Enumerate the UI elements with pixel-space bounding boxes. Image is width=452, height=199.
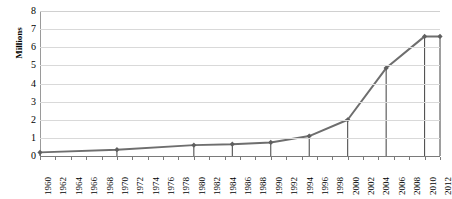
x-axis-tick-mark [71, 157, 72, 160]
x-axis-tick-mark [332, 157, 333, 160]
x-axis-tick-mark [86, 157, 87, 160]
x-axis-tick-label: 1964 [75, 177, 84, 195]
x-axis-tick-mark [378, 157, 379, 160]
x-axis-tick-mark [271, 157, 272, 160]
x-axis-tick-mark [425, 157, 426, 160]
y-axis-tick-label: 1 [14, 133, 36, 143]
x-axis-tick-mark [348, 157, 349, 160]
x-axis-tick-mark [194, 157, 195, 160]
x-axis-tick-label: 1976 [167, 177, 176, 195]
x-axis-tick-mark [363, 157, 364, 160]
data-point-marker [114, 147, 119, 152]
y-axis-tick-label: 7 [14, 24, 36, 34]
x-axis-tick-label: 1970 [121, 177, 130, 195]
x-axis-tick-mark [178, 157, 179, 160]
data-point-marker [230, 142, 235, 147]
y-axis-tick-label: 0 [14, 151, 36, 161]
x-axis-tick-label: 1984 [229, 177, 238, 195]
x-axis-tick-label: 2010 [429, 177, 438, 195]
x-axis-tick-label: 1996 [321, 177, 330, 195]
gridline [40, 84, 440, 85]
gridline [40, 120, 440, 121]
x-axis-tick-label: 1966 [90, 177, 99, 195]
x-axis-tick-label: 1980 [198, 177, 207, 195]
x-axis-tick-label: 1972 [136, 177, 145, 195]
data-point-marker [437, 34, 442, 39]
x-axis-tick-label: 2012 [444, 177, 452, 195]
y-axis-tick-label: 4 [14, 79, 36, 89]
x-axis-tick-label: 1982 [213, 177, 222, 195]
x-axis-tick-mark [394, 157, 395, 160]
y-axis-tick-labels: 876543210 [10, 0, 36, 199]
x-axis-tick-mark [302, 157, 303, 160]
x-axis-tick-label: 1992 [290, 177, 299, 195]
gridline [40, 102, 440, 103]
y-axis-tick-label: 5 [14, 60, 36, 70]
x-axis-tick-label: 2008 [413, 177, 422, 195]
gridline [40, 29, 440, 30]
x-axis-tick-mark [286, 157, 287, 160]
series-polyline [40, 36, 440, 152]
x-axis-tick-mark [102, 157, 103, 160]
x-axis-tick-label: 1962 [59, 177, 68, 195]
x-axis-tick-label: 2004 [382, 177, 391, 195]
gridline [40, 138, 440, 139]
x-axis-tick-label: 1960 [44, 177, 53, 195]
x-axis-tick-mark [117, 157, 118, 160]
x-axis-tick-mark [209, 157, 210, 160]
y-axis-tick-label: 8 [14, 6, 36, 16]
x-axis-tick-label: 1974 [152, 177, 161, 195]
x-axis-tick-label: 1978 [182, 177, 191, 195]
x-axis-tick-label: 1988 [259, 177, 268, 195]
x-axis-tick-label: 1990 [275, 177, 284, 195]
gridline [40, 11, 440, 12]
plot-area [40, 11, 440, 156]
data-point-marker [268, 140, 273, 145]
x-axis-tick-mark [240, 157, 241, 160]
x-axis-tick-mark [132, 157, 133, 160]
gridline [40, 47, 440, 48]
y-axis-tick-label: 6 [14, 42, 36, 52]
x-axis-tick-label: 2002 [367, 177, 376, 195]
x-axis-tick-label: 1986 [244, 177, 253, 195]
x-axis-tick-mark [40, 157, 41, 160]
data-point-marker [191, 143, 196, 148]
y-axis-tick-label: 2 [14, 115, 36, 125]
x-axis-tick-label: 1994 [306, 177, 315, 195]
x-axis-tick-label: 2006 [398, 177, 407, 195]
x-axis-tick-label: 2000 [352, 177, 361, 195]
x-axis-tick-mark [255, 157, 256, 160]
x-axis-tick-label: 1998 [336, 177, 345, 195]
x-axis-tick-mark [317, 157, 318, 160]
x-axis-tick-mark [148, 157, 149, 160]
line-chart: Millions 876543210 196019621964196619681… [0, 0, 452, 199]
x-axis-tick-mark [55, 157, 56, 160]
x-axis-tick-labels: 1960196219641966196819701972197419761978… [40, 157, 440, 199]
x-axis-tick-label: 1968 [106, 177, 115, 195]
gridline [40, 65, 440, 66]
data-point-marker [37, 150, 42, 155]
y-axis-tick-label: 3 [14, 97, 36, 107]
x-axis-tick-mark [163, 157, 164, 160]
x-axis-tick-mark [409, 157, 410, 160]
x-axis-tick-mark [225, 157, 226, 160]
x-axis-tick-mark [440, 157, 441, 160]
